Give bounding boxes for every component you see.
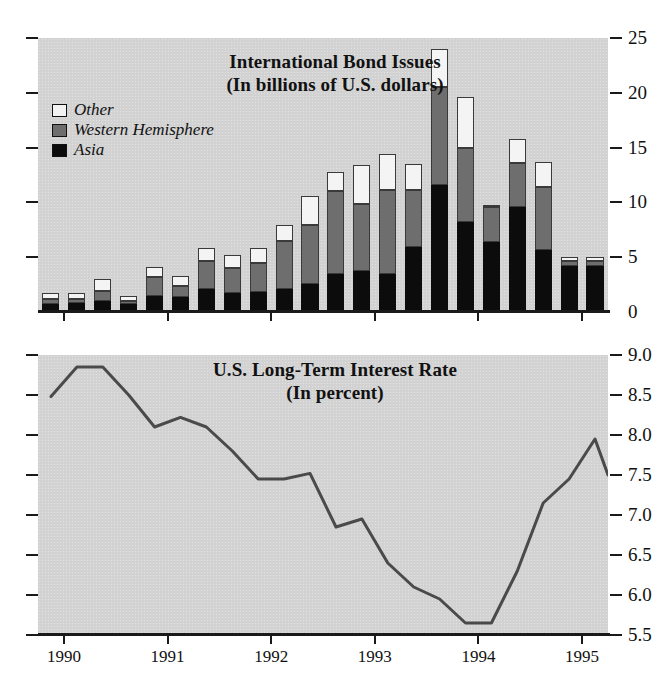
bar-1994Q3 — [535, 162, 552, 312]
y-tick-right-5 — [610, 256, 622, 258]
bar-segment-other — [94, 279, 111, 291]
bar-segment-other — [276, 225, 293, 240]
y-tick-left-6.5 — [26, 554, 38, 556]
y-tick-label-5.5: 5.5 — [628, 625, 652, 644]
bar-segment-other — [353, 165, 370, 203]
bar-1992Q4 — [353, 165, 370, 312]
interest-rate-title-line2: (In percent) — [0, 381, 670, 404]
y-tick-right-5.5 — [610, 634, 622, 636]
bar-segment-other — [405, 164, 422, 190]
x-tick-1992 — [270, 312, 272, 321]
bar-segment-asia — [353, 271, 370, 312]
x-tick-1995 — [581, 635, 583, 644]
y-tick-right-6.5 — [610, 554, 622, 556]
y-tick-label-7.5: 7.5 — [628, 465, 652, 484]
bar-segment-western-hemisphere — [94, 291, 111, 301]
bar-segment-western-hemisphere — [224, 268, 241, 293]
x-tick-1995 — [581, 312, 583, 321]
bar-segment-western-hemisphere — [172, 286, 189, 297]
bar-segment-western-hemisphere — [535, 187, 552, 249]
x-tick-1990 — [63, 635, 65, 644]
bar-segment-other — [379, 154, 396, 190]
bar-segment-other — [68, 293, 85, 298]
bond-issues-x-axis — [38, 310, 610, 313]
x-tick-label-1994: 1994 — [450, 648, 506, 665]
legend-item-other: Other — [52, 100, 214, 120]
bar-1990Q4 — [146, 267, 163, 312]
y-tick-left-15 — [26, 147, 38, 149]
bar-segment-asia — [431, 185, 448, 312]
legend-swatch-asia-icon — [52, 144, 67, 157]
y-tick-label-8: 8.0 — [628, 425, 652, 444]
bar-1995Q1 — [586, 257, 603, 312]
bar-segment-asia — [198, 289, 215, 312]
bar-segment-other — [535, 162, 552, 187]
bar-segment-other — [561, 257, 578, 260]
interest-rate-x-axis — [38, 633, 610, 636]
bar-1993Q2 — [405, 164, 422, 312]
x-tick-1991 — [167, 312, 169, 321]
bar-segment-western-hemisphere — [42, 299, 59, 304]
y-tick-right-20 — [610, 92, 622, 94]
y-tick-label-10: 10 — [628, 192, 647, 211]
bar-segment-western-hemisphere — [483, 207, 500, 242]
x-tick-label-1995: 1995 — [554, 648, 610, 665]
bar-segment-asia — [405, 247, 422, 312]
x-tick-label-1993: 1993 — [347, 648, 403, 665]
legend-item-asia: Asia — [52, 140, 214, 160]
legend-label-asia: Asia — [74, 140, 104, 160]
legend-label-other: Other — [74, 100, 114, 120]
bar-segment-western-hemisphere — [379, 190, 396, 273]
bar-1994Q4 — [561, 257, 578, 312]
y-tick-label-6: 6.0 — [628, 585, 652, 604]
interest-rate-title-line1: U.S. Long-Term Interest Rate — [213, 359, 457, 380]
x-tick-1990 — [63, 312, 65, 321]
bar-1993Q4 — [457, 97, 474, 312]
legend-swatch-other-icon — [52, 104, 67, 117]
bar-1993Q1 — [379, 154, 396, 312]
y-tick-right-6 — [610, 594, 622, 596]
y-tick-left-7 — [26, 514, 38, 516]
bar-segment-other — [120, 296, 137, 301]
bar-segment-other — [457, 97, 474, 147]
y-tick-label-25: 25 — [628, 28, 647, 47]
y-tick-left-8 — [26, 434, 38, 436]
bar-segment-other — [509, 139, 526, 163]
bar-segment-western-hemisphere — [327, 191, 344, 273]
legend-label-western_hemisphere: Western Hemisphere — [74, 120, 214, 140]
bar-segment-asia — [509, 207, 526, 312]
bar-segment-asia — [586, 266, 603, 312]
bar-1992Q2 — [301, 196, 318, 312]
y-tick-left-25 — [26, 37, 38, 39]
bar-segment-other — [224, 255, 241, 268]
x-tick-1994 — [477, 635, 479, 644]
bar-segment-asia — [535, 250, 552, 312]
bar-1994Q2 — [509, 139, 526, 312]
bar-segment-western-hemisphere — [457, 148, 474, 223]
y-tick-right-7 — [610, 514, 622, 516]
bar-segment-other — [483, 205, 500, 207]
y-tick-left-9 — [26, 354, 38, 356]
y-tick-label-7: 7.0 — [628, 505, 652, 524]
y-tick-left-5.5 — [26, 634, 38, 636]
legend-swatch-western_hemisphere-icon — [52, 124, 67, 137]
bar-segment-western-hemisphere — [68, 299, 85, 303]
legend-item-western_hemisphere: Western Hemisphere — [52, 120, 214, 140]
bar-segment-other — [146, 267, 163, 277]
bar-segment-asia — [379, 274, 396, 312]
y-tick-left-20 — [26, 92, 38, 94]
bar-segment-western-hemisphere — [301, 225, 318, 283]
bar-segment-asia — [327, 274, 344, 312]
y-tick-label-6.5: 6.5 — [628, 545, 652, 564]
bar-segment-western-hemisphere — [353, 204, 370, 272]
y-tick-right-10 — [610, 201, 622, 203]
y-tick-left-6 — [26, 594, 38, 596]
y-tick-label-9: 9.0 — [628, 345, 652, 364]
y-tick-left-7.5 — [26, 474, 38, 476]
y-tick-right-9 — [610, 354, 622, 356]
y-tick-label-20: 20 — [628, 83, 647, 102]
panel-interest-rate: U.S. Long-Term Interest Rate (In percent… — [0, 340, 670, 690]
bar-segment-western-hemisphere — [276, 241, 293, 289]
bar-segment-western-hemisphere — [120, 301, 137, 304]
bar-segment-other — [198, 248, 215, 260]
